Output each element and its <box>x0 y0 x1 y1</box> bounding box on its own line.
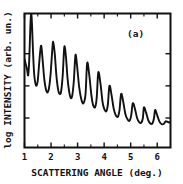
x-tick-label: 6 <box>155 152 160 162</box>
x-axis-label: SCATTERING ANGLE (deg.) <box>31 167 163 178</box>
x-axis-tick-labels: 123456 <box>22 152 160 162</box>
x-tick-label: 3 <box>75 152 80 162</box>
x-tick-label: 1 <box>22 152 27 162</box>
panel-label: (a) <box>127 28 144 39</box>
x-tick-label: 2 <box>48 152 53 162</box>
data-curve-layer <box>25 13 171 124</box>
reflectivity-curve <box>25 13 171 124</box>
x-tick-label: 4 <box>101 152 107 162</box>
figure-panel-a: 123456 (a) SCATTERING ANGLE (deg.) log I… <box>0 0 183 184</box>
x-tick-label: 5 <box>128 152 133 162</box>
scattering-intensity-chart: 123456 (a) SCATTERING ANGLE (deg.) log I… <box>0 0 183 184</box>
y-axis-label: log INTENSITY (arb. un.) <box>2 11 13 148</box>
